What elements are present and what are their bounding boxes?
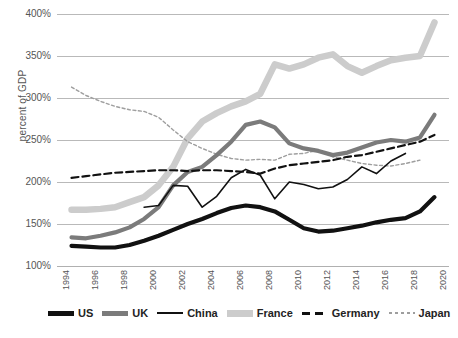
y-tick-label: 300% bbox=[5, 92, 51, 103]
legend-label: US bbox=[78, 307, 93, 319]
chart-root: percent of GDP 400%350%300%250%200%150%1… bbox=[0, 0, 458, 338]
y-tick-label: 350% bbox=[5, 50, 51, 61]
x-tick-label: 2020 bbox=[438, 270, 448, 290]
x-tick-label: 2010 bbox=[293, 270, 303, 290]
series-canvas bbox=[57, 14, 449, 266]
legend-label: Japan bbox=[419, 307, 451, 319]
legend-item-us[interactable]: US bbox=[48, 307, 93, 319]
y-tick-label: 100% bbox=[5, 260, 51, 271]
x-axis-line bbox=[57, 266, 449, 267]
legend-swatch-germany bbox=[302, 307, 328, 319]
legend-item-uk[interactable]: UK bbox=[102, 307, 148, 319]
legend-item-germany[interactable]: Germany bbox=[302, 307, 380, 319]
legend-label: Germany bbox=[332, 307, 380, 319]
legend-swatch-france bbox=[227, 307, 253, 319]
y-tick-label: 150% bbox=[5, 218, 51, 229]
x-tick-label: 2012 bbox=[322, 270, 332, 290]
x-tick-label: 2000 bbox=[148, 270, 158, 290]
legend-label: China bbox=[187, 307, 218, 319]
legend-label: France bbox=[257, 307, 293, 319]
series-line-china bbox=[144, 153, 405, 207]
legend-item-france[interactable]: France bbox=[227, 307, 293, 319]
x-tick-label: 2006 bbox=[235, 270, 245, 290]
legend-item-china[interactable]: China bbox=[157, 307, 218, 319]
x-tick-label: 2018 bbox=[409, 270, 419, 290]
x-tick-label: 1998 bbox=[119, 270, 129, 290]
legend-swatch-us bbox=[48, 307, 74, 319]
y-tick-label: 400% bbox=[5, 8, 51, 19]
x-tick-label: 1994 bbox=[61, 270, 71, 290]
legend-item-japan[interactable]: Japan bbox=[389, 307, 451, 319]
y-tick-label: 250% bbox=[5, 134, 51, 145]
legend-swatch-china bbox=[157, 307, 183, 319]
legend-label: UK bbox=[132, 307, 148, 319]
plot-area bbox=[57, 14, 449, 266]
x-tick-label: 2014 bbox=[351, 270, 361, 290]
x-tick-label: 2016 bbox=[380, 270, 390, 290]
y-tick-label: 200% bbox=[5, 176, 51, 187]
x-tick-label: 2004 bbox=[206, 270, 216, 290]
series-line-france bbox=[72, 22, 435, 209]
chart-legend: USUKChinaFranceGermanyJapan bbox=[48, 303, 448, 323]
x-tick-label: 2008 bbox=[264, 270, 274, 290]
legend-swatch-uk bbox=[102, 307, 128, 319]
legend-swatch-japan bbox=[389, 307, 415, 319]
x-tick-label: 2002 bbox=[177, 270, 187, 290]
x-tick-label: 1996 bbox=[90, 270, 100, 290]
